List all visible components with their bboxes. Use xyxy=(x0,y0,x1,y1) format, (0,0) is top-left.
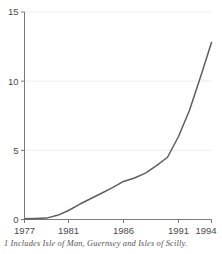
y-tick-label-10: 10 xyxy=(8,76,19,87)
chart-plot-area: 051015 19771981198619911994 xyxy=(0,0,222,254)
x-tick-labels-group: 19771981198619911994 xyxy=(14,225,217,236)
y-tick-label-5: 5 xyxy=(13,145,18,156)
y-tick-label-15: 15 xyxy=(8,6,19,17)
chart-footnote: 1 Includes Isle of Man, Guernsey and Isl… xyxy=(4,239,218,248)
x-tick-label-1986: 1986 xyxy=(113,225,134,236)
chart-figure: 051015 19771981198619911994 1 Includes I… xyxy=(0,0,222,254)
axis-lines-group xyxy=(25,12,212,220)
x-tick-label-1981: 1981 xyxy=(58,225,79,236)
data-line-series-1 xyxy=(25,42,212,218)
x-tick-label-1977: 1977 xyxy=(14,225,35,236)
gridlines-group xyxy=(25,12,212,150)
y-tick-labels-group: 051015 xyxy=(8,6,19,225)
data-series-group xyxy=(25,42,212,218)
x-tick-label-1994: 1994 xyxy=(195,225,216,236)
y-tick-label-0: 0 xyxy=(13,214,18,225)
x-tick-label-1991: 1991 xyxy=(168,225,189,236)
tick-marks-group xyxy=(21,12,212,223)
